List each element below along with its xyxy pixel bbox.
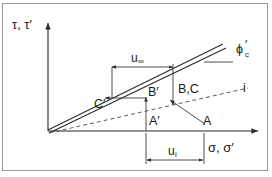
svg-text:c: c — [245, 50, 249, 59]
figure-root: τ, τ′ σ, σ′ ϕ ′ c u ∞ u i B,C i B′ C′ A′… — [0, 0, 272, 177]
svg-text:i: i — [175, 150, 177, 159]
u-i-label: u i — [168, 144, 177, 159]
phi-c-label: ϕ ′ c — [236, 38, 249, 59]
shear-strength-diagram: τ, τ′ σ, σ′ ϕ ′ c u ∞ u i B,C i B′ C′ A′… — [0, 0, 272, 177]
label-B-prime: B′ — [148, 85, 159, 99]
label-A-prime: A′ — [149, 114, 160, 128]
label-B-C: B,C — [178, 82, 199, 96]
label-A: A — [203, 114, 212, 128]
a-leader-arrow — [170, 100, 205, 124]
label-C-prime: C′ — [94, 97, 106, 111]
svg-text:u: u — [131, 51, 138, 65]
svg-text:u: u — [168, 144, 175, 158]
x-axis-label: σ, σ′ — [208, 140, 234, 155]
svg-text:∞: ∞ — [138, 57, 144, 66]
u-infinity-label: u ∞ — [131, 51, 144, 66]
svg-text:ϕ: ϕ — [236, 42, 243, 56]
label-line-i: i — [243, 81, 246, 95]
y-axis-label: τ, τ′ — [12, 17, 32, 32]
